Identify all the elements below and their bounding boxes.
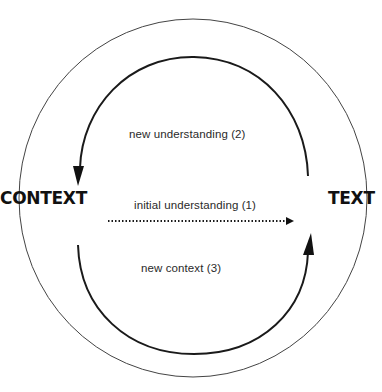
label-initial-understanding: initial understanding (1) <box>134 199 256 211</box>
arrowhead-down-icon <box>73 166 84 186</box>
label-new-context: new context (3) <box>141 262 221 274</box>
upper-arc-new-understanding <box>80 57 308 176</box>
arrowhead-right-icon <box>286 217 294 225</box>
arrowhead-up-icon <box>303 233 314 255</box>
label-new-understanding: new understanding (2) <box>129 128 246 140</box>
node-text: TEXT <box>328 188 375 208</box>
node-context: CONTEXT <box>0 188 87 208</box>
